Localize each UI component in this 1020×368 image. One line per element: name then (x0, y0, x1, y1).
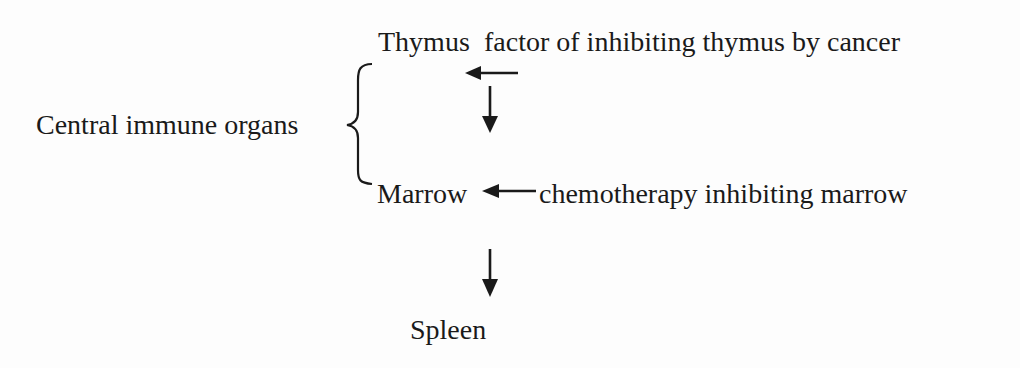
marrow-node-label: Marrow (377, 180, 467, 208)
arrow-down-thymus-to-marrow-icon (482, 86, 498, 133)
diagram-canvas: Thymus factor of inhibiting thymus by ca… (0, 0, 1020, 368)
arrow-down-marrow-to-spleen-icon (482, 249, 498, 297)
thymus-node-label: Thymus (378, 28, 470, 56)
central-immune-organs-label: Central immune organs (36, 111, 298, 139)
marrow-inhibitor-annotation: chemotherapy inhibiting marrow (539, 180, 908, 208)
thymus-inhibitor-annotation: factor of inhibiting thymus by cancer (484, 28, 900, 56)
spleen-node-label: Spleen (410, 316, 486, 344)
arrow-left-marrow-inhibition-icon (482, 184, 536, 198)
arrow-left-thymus-inhibition-icon (465, 66, 518, 80)
curly-brace-icon (347, 64, 372, 184)
